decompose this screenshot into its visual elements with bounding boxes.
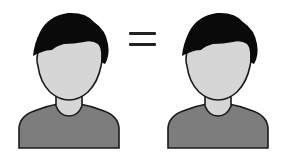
equals-sign: = [129, 32, 157, 48]
right-person-avatar: Person avatar (right) [163, 0, 273, 160]
person-avatar-icon [163, 0, 273, 160]
equals-icon-bottom-bar [129, 43, 156, 46]
person-avatar-icon [14, 0, 124, 160]
left-person-avatar: Person avatar (left) [14, 0, 124, 160]
equals-icon-top-bar [129, 32, 156, 35]
